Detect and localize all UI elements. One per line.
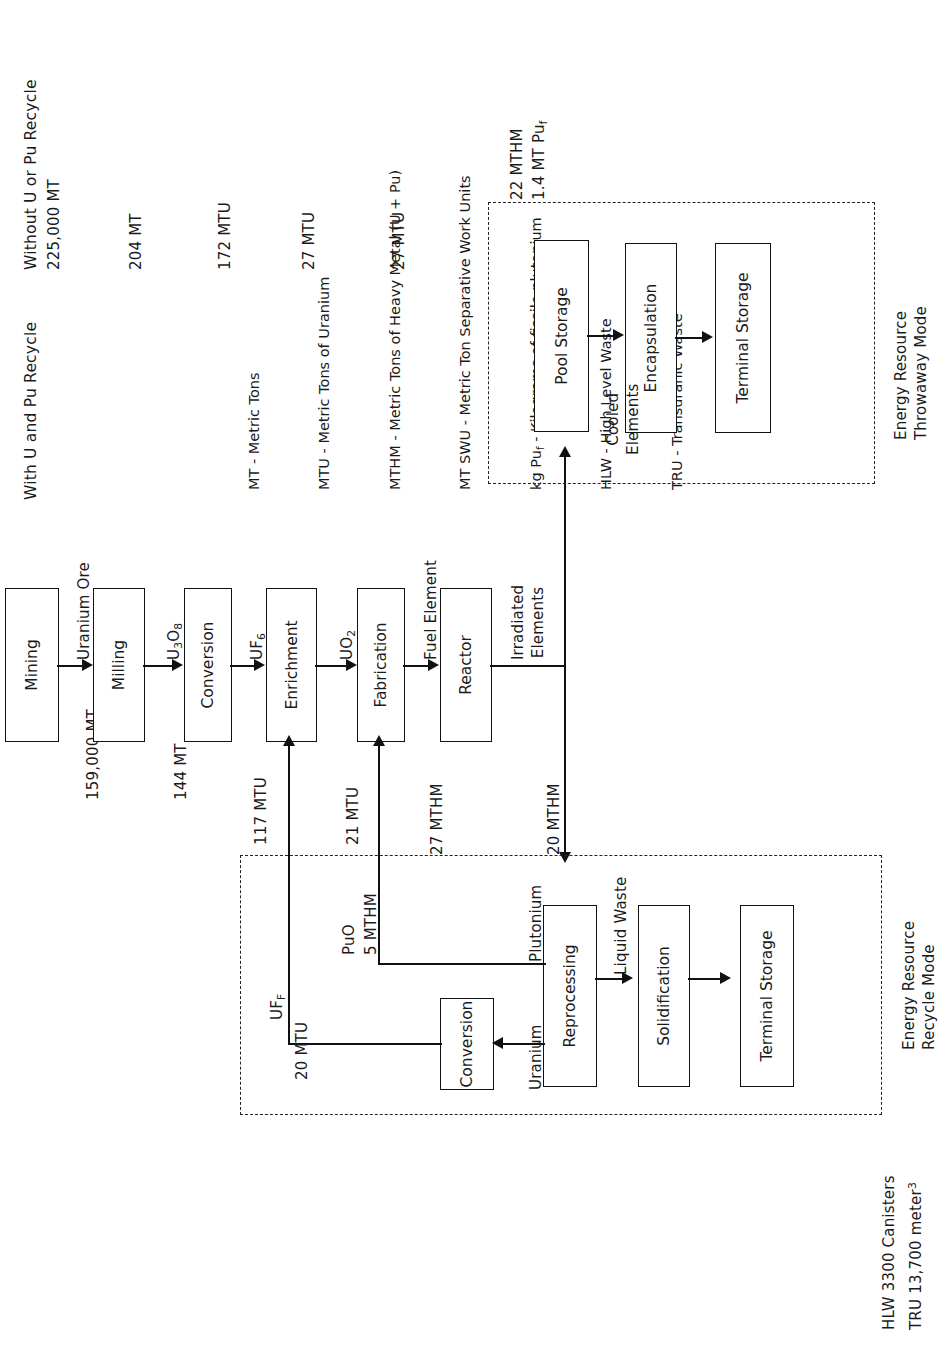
arrow-milling-conversion bbox=[172, 659, 183, 671]
box-mining[interactable]: Mining bbox=[5, 588, 59, 742]
value-ore-225000: 225,000 MT bbox=[45, 179, 64, 270]
arrow-reprocessing-conversion bbox=[492, 1037, 503, 1049]
box-conversion-recycle-label: Conversion bbox=[458, 1001, 477, 1088]
box-enrichment[interactable]: Enrichment bbox=[266, 588, 317, 742]
box-milling[interactable]: Milling bbox=[93, 588, 145, 742]
arrow-encapsulation-terminal bbox=[702, 331, 713, 343]
label-uff: UFF bbox=[268, 994, 288, 1020]
arrow-fabrication-reactor bbox=[428, 659, 439, 671]
label-fuel-element: Fuel Element bbox=[422, 560, 441, 660]
footer-tru-volume: TRU 13,700 meter3 bbox=[906, 1182, 926, 1330]
box-pool-storage[interactable]: Pool Storage bbox=[534, 240, 589, 432]
value-pool-pu: 1.4 MT Puf bbox=[530, 120, 550, 200]
value-enr-27: 27 MTU bbox=[300, 212, 319, 270]
connector-pool-encapsulation bbox=[587, 335, 614, 337]
box-mining-label: Mining bbox=[23, 639, 42, 690]
box-reprocessing-label: Reprocessing bbox=[561, 944, 580, 1047]
label-puo: PuO bbox=[340, 924, 359, 955]
label-uranium-ore: Uranium Ore bbox=[75, 562, 94, 660]
connector-milling-conversion bbox=[143, 665, 173, 667]
connector-conversion-enrichment bbox=[230, 665, 255, 667]
box-solidification-label: Solidification bbox=[655, 946, 674, 1046]
box-conversion-label: Conversion bbox=[199, 622, 218, 709]
value-conv-172: 172 MTU bbox=[216, 202, 235, 270]
box-conversion[interactable]: Conversion bbox=[184, 588, 232, 742]
value-mill-144: 144 MT bbox=[172, 743, 191, 800]
box-fabrication[interactable]: Fabrication bbox=[357, 588, 405, 742]
value-enr-21: 21 MTU bbox=[344, 787, 363, 845]
connector-fabrication-reactor bbox=[403, 665, 429, 667]
legend-item-mtswu: MT SWU - Metric Ton Separative Work Unit… bbox=[454, 170, 477, 490]
value-uff-20-mtu: 20 MTU bbox=[293, 1022, 312, 1080]
label-liquid-waste: Liquid Waste bbox=[612, 877, 631, 975]
recycle-mode-caption: Energy Resource Recycle Mode bbox=[900, 921, 938, 1050]
connector-encapsulation-terminal bbox=[675, 337, 703, 339]
connector-reprocessing-solidification bbox=[595, 978, 623, 980]
box-encapsulation-label: Encapsulation bbox=[642, 284, 661, 393]
box-reactor-label: Reactor bbox=[457, 635, 476, 695]
fuel-cycle-diagram: With U and Pu Recycle Without U or Pu Re… bbox=[0, 0, 938, 1359]
arrow-solidification-terminal bbox=[720, 972, 731, 984]
value-puo-5-mthm: 5 MTHM bbox=[362, 893, 381, 955]
label-plutonium: Plutonium bbox=[527, 885, 546, 962]
label-cooled-elements: Cooled Elements bbox=[604, 383, 643, 455]
label-uranium: Uranium bbox=[527, 1024, 546, 1090]
reactor-output-line bbox=[490, 665, 566, 667]
legend-item-mt: MT - Metric Tons bbox=[243, 170, 266, 490]
box-reprocessing[interactable]: Reprocessing bbox=[543, 905, 597, 1087]
arrow-enrichment-fabrication bbox=[346, 659, 357, 671]
connector-mining-milling bbox=[57, 665, 83, 667]
value-fab-27-mthm: 27 MTHM bbox=[428, 783, 447, 855]
box-solidification[interactable]: Solidification bbox=[638, 905, 690, 1087]
connector-enrichment-fabrication bbox=[315, 665, 347, 667]
arrow-mining-milling bbox=[82, 659, 93, 671]
box-terminal-storage-recycle[interactable]: Terminal Storage bbox=[740, 905, 794, 1087]
value-fab-27: 27 MTU bbox=[390, 212, 409, 270]
arrow-plutonium-to-fabrication bbox=[373, 735, 385, 746]
box-conversion-recycle[interactable]: Conversion bbox=[440, 998, 494, 1090]
arrow-pool-encapsulation bbox=[613, 329, 624, 341]
box-enrichment-label: Enrichment bbox=[282, 620, 301, 709]
value-mill-204: 204 MT bbox=[127, 213, 146, 270]
header-throwaway-mode-label: Without U or Pu Recycle bbox=[22, 79, 41, 270]
arrow-uff-to-enrichment bbox=[283, 735, 295, 746]
header-recycle-mode-label: With U and Pu Recycle bbox=[22, 322, 41, 500]
footer-hlw-canisters: HLW 3300 Canisters bbox=[880, 1175, 899, 1330]
connector-solidification-terminal bbox=[688, 978, 721, 980]
box-reactor[interactable]: Reactor bbox=[440, 588, 492, 742]
box-milling-label: Milling bbox=[110, 640, 129, 690]
plutonium-horizontal bbox=[378, 963, 546, 965]
arrow-conversion-enrichment bbox=[254, 659, 265, 671]
spine-to-pool-storage bbox=[564, 452, 566, 667]
box-pool-storage-label: Pool Storage bbox=[552, 287, 571, 385]
label-u3o8: U3O8 bbox=[165, 623, 185, 660]
label-irradiated-elements: Irradiated Elements bbox=[509, 585, 548, 660]
spine-to-reprocessing bbox=[564, 665, 566, 857]
value-pool-22-mthm: 22 MTHM bbox=[508, 128, 527, 200]
label-uf6: UF6 bbox=[248, 633, 268, 660]
box-fabrication-label: Fabrication bbox=[372, 622, 391, 707]
box-terminal-storage-recycle-label: Terminal Storage bbox=[758, 930, 777, 1061]
label-uo2: UO2 bbox=[338, 630, 358, 660]
value-conv-117: 117 MTU bbox=[252, 777, 271, 845]
box-terminal-storage-throwaway[interactable]: Terminal Storage bbox=[715, 243, 771, 433]
throwaway-mode-caption: Energy Resource Throwaway Mode bbox=[892, 306, 931, 440]
box-terminal-storage-throwaway-label: Terminal Storage bbox=[734, 272, 753, 403]
uff-vertical-to-enrichment bbox=[288, 741, 290, 1045]
value-reactor-20-mthm: 20 MTHM bbox=[545, 783, 564, 855]
